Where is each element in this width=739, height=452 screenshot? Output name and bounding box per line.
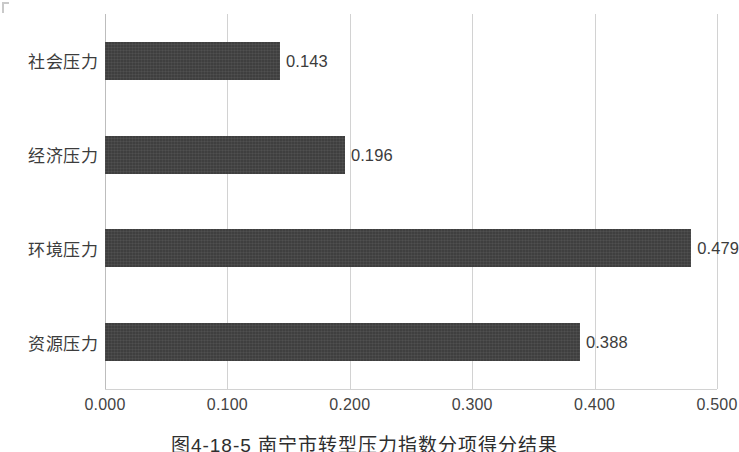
x-tick-label-0.400: 0.400 [574,396,615,414]
x-tick-label-0.100: 0.100 [207,396,248,414]
scan-artifact-mark [2,2,9,13]
category-label-resource-pressure: 资源压力 [28,330,98,355]
x-tick-label-0.500: 0.500 [696,396,737,414]
category-label-economic-pressure: 经济压力 [28,142,98,167]
x-axis-line [105,389,717,390]
bar-row: 0.388 [105,295,717,389]
category-label-row: 社会压力 [0,14,98,108]
category-label-social-pressure: 社会压力 [28,48,98,73]
x-tick-label-0.000: 0.000 [84,396,125,414]
x-tick-label-0.300: 0.300 [452,396,493,414]
bar-row: 0.196 [105,108,717,202]
bar-row: 0.479 [105,202,717,296]
bar-value-economic-pressure: 0.196 [351,145,393,164]
bar-environmental-pressure [105,229,691,267]
bar-value-resource-pressure: 0.388 [586,333,628,352]
figure-caption: 图4-18-5 南宁市转型压力指数分项得分结果 [0,430,729,452]
category-label-row: 经济压力 [0,108,98,202]
bar-row: 0.143 [105,14,717,108]
bar-social-pressure [105,42,280,80]
bar-value-social-pressure: 0.143 [286,51,328,70]
category-label-row: 资源压力 [0,295,98,389]
category-label-row: 环境压力 [0,202,98,296]
bar-value-environmental-pressure: 0.479 [697,239,739,258]
x-tick-label-0.200: 0.200 [329,396,370,414]
plot-area: 0.143 0.196 0.479 0.388 [105,14,717,389]
bar-resource-pressure [105,323,580,361]
bar-economic-pressure [105,136,345,174]
gridline-0.500 [717,14,718,389]
category-label-environmental-pressure: 环境压力 [28,236,98,261]
